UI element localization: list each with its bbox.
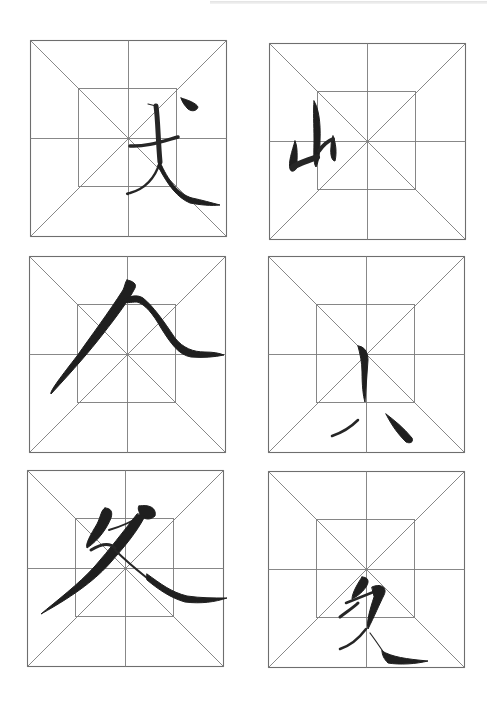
practice-cell-1: 丈 [30, 40, 227, 237]
mizige-grid-with-character [27, 470, 224, 667]
brush-character-ren [51, 280, 224, 394]
mizige-grid-with-character [29, 256, 226, 453]
practice-cell-5: 友 [27, 470, 224, 667]
mizige-grid [269, 43, 466, 240]
practice-cell-4: 小 [268, 256, 465, 453]
mizige-grid [27, 470, 224, 667]
mizige-grid-with-character [269, 43, 466, 240]
mizige-grid [30, 40, 227, 237]
mizige-grid [268, 471, 465, 668]
mizige-grid-with-character [268, 471, 465, 668]
brush-character-shan [289, 101, 336, 171]
mizige-grid-with-character [268, 256, 465, 453]
practice-cell-6: 友 [268, 471, 465, 668]
practice-cell-2: 山 [269, 43, 466, 240]
mizige-grid-with-character [30, 40, 227, 237]
top-edge-rule [210, 1, 487, 4]
practice-cell-3: 人 [29, 256, 226, 453]
